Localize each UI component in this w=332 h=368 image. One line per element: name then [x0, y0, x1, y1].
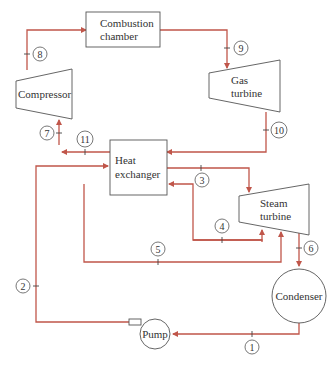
state-marker-4: 4 — [215, 219, 229, 233]
svg-text:9: 9 — [239, 43, 244, 54]
state-marker-2: 2 — [16, 279, 30, 293]
heat-exchanger-label-2: exchanger — [115, 168, 161, 180]
state-marker-6: 6 — [304, 241, 318, 255]
gas-turbine: Gas turbine — [209, 60, 280, 112]
pump: Pump — [129, 319, 170, 349]
combustion-chamber-label-2: chamber — [100, 30, 138, 42]
state-marker-5: 5 — [151, 242, 165, 256]
compressor: Compressor — [16, 69, 72, 119]
svg-text:11: 11 — [80, 134, 90, 145]
svg-text:4: 4 — [220, 221, 225, 232]
svg-text:2: 2 — [21, 281, 26, 292]
svg-text:1: 1 — [250, 342, 255, 353]
gas-turbine-label-2: turbine — [231, 87, 262, 99]
pipe-state-1 — [173, 322, 299, 334]
state-marker-1: 1 — [245, 340, 259, 354]
pipe-state-9 — [160, 30, 227, 68]
gas-turbine-label-1: Gas — [231, 74, 248, 86]
condenser-label: Condenser — [275, 290, 322, 302]
combustion-chamber-label-1: Combustion — [100, 17, 154, 29]
state-marker-9: 9 — [234, 41, 248, 55]
pipe-state-4-return — [193, 230, 262, 240]
state-marker-8: 8 — [33, 47, 47, 61]
svg-text:6: 6 — [309, 243, 314, 254]
compressor-label: Compressor — [18, 88, 72, 100]
combined-cycle-diagram: Combustion chamber Compressor Gas turbin… — [0, 0, 332, 368]
svg-text:10: 10 — [274, 125, 284, 136]
state-marker-10: 10 — [271, 122, 287, 138]
svg-text:7: 7 — [45, 128, 50, 139]
heat-exchanger: Heat exchanger — [110, 140, 167, 195]
state-marker-11: 11 — [77, 131, 93, 147]
steam-turbine-label-1: Steam — [260, 197, 288, 209]
pump-label: Pump — [142, 328, 168, 340]
combustion-chamber: Combustion chamber — [86, 12, 160, 47]
condenser: Condenser — [272, 269, 326, 323]
svg-text:8: 8 — [38, 49, 43, 60]
svg-text:5: 5 — [156, 244, 161, 255]
heat-exchanger-label-1: Heat — [115, 154, 136, 166]
state-marker-7: 7 — [40, 126, 54, 140]
pipe-state-10 — [167, 112, 266, 152]
state-marker-3: 3 — [195, 173, 209, 187]
svg-text:3: 3 — [200, 175, 205, 186]
steam-turbine-label-2: turbine — [260, 210, 291, 222]
